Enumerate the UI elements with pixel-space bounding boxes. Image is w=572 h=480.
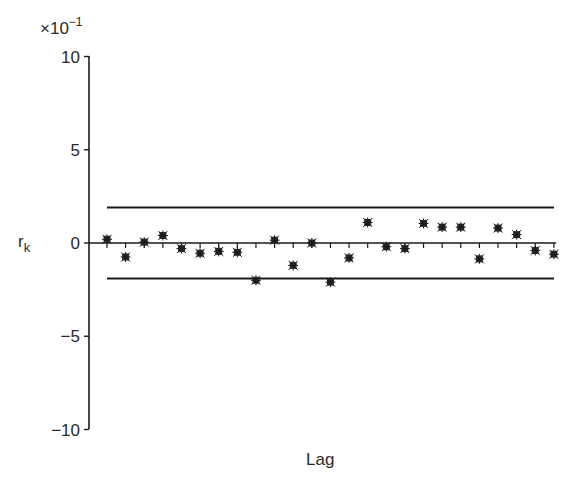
data-point-marker — [400, 244, 410, 254]
data-point-marker — [270, 235, 280, 245]
data-point-marker — [251, 275, 261, 285]
data-point-marker — [437, 222, 447, 232]
data-point-marker — [530, 245, 540, 255]
y-tick-label: 5 — [71, 141, 80, 160]
data-point-marker — [381, 242, 391, 252]
data-point-marker — [325, 277, 335, 287]
data-point-marker — [307, 238, 317, 248]
data-point-marker — [121, 252, 131, 262]
y-axis-ticks: 1050−5−10 — [51, 48, 89, 440]
data-point-marker — [512, 230, 522, 240]
y-tick-label: −5 — [61, 327, 80, 346]
data-point-marker — [474, 254, 484, 264]
data-points — [102, 217, 559, 287]
acf-chart: ×10−1 1050−5−10 rk Lag — [0, 0, 572, 480]
data-point-marker — [214, 246, 224, 256]
data-point-marker — [456, 222, 466, 232]
y-multiplier-label: ×10−1 — [40, 15, 83, 38]
y-tick-label: 0 — [71, 234, 80, 253]
x-axis-ticks — [107, 243, 554, 248]
data-point-marker — [176, 244, 186, 254]
x-axis-label: Lag — [306, 450, 334, 469]
data-point-marker — [419, 218, 429, 228]
y-axis-label: rk — [18, 232, 31, 255]
data-point-marker — [363, 217, 373, 227]
data-point-marker — [102, 234, 112, 244]
data-point-marker — [493, 223, 503, 233]
data-point-marker — [158, 231, 168, 241]
data-point-marker — [232, 247, 242, 257]
y-tick-label: −10 — [51, 421, 80, 440]
data-point-marker — [344, 253, 354, 263]
data-point-marker — [139, 237, 149, 247]
data-point-marker — [549, 249, 559, 259]
data-point-marker — [288, 260, 298, 270]
y-tick-label: 10 — [61, 48, 80, 67]
data-point-marker — [195, 248, 205, 258]
